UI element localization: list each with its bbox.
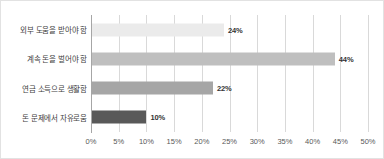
x-tick-label: 10% xyxy=(139,137,154,146)
x-tick-label: 20% xyxy=(194,137,209,146)
bar-row: 10% xyxy=(91,103,368,132)
category-label-row: 계속 돈을 벌어야 함 xyxy=(1,44,87,73)
value-axis-ticks: 0%5%10%15%20%25%30%35%40%45%50% xyxy=(91,137,368,151)
category-label: 돈 문제에서 자유로움 xyxy=(22,112,87,123)
bar-row: 24% xyxy=(91,15,368,44)
x-tick-label: 40% xyxy=(305,137,320,146)
bar-value-label: 44% xyxy=(339,54,354,63)
plot-area: 24%44%22%10% xyxy=(91,15,368,132)
x-tick-label: 25% xyxy=(222,137,237,146)
bar-row: 22% xyxy=(91,74,368,103)
category-label: 외부 도움을 받아야 함 xyxy=(20,24,87,35)
category-label: 연금 소득으로 생활함 xyxy=(22,83,87,94)
x-tick-label: 5% xyxy=(113,137,124,146)
bar-value-label: 22% xyxy=(217,84,232,93)
x-tick-label: 50% xyxy=(360,137,375,146)
x-tick-label: 45% xyxy=(333,137,348,146)
bar-value-label: 10% xyxy=(150,113,165,122)
category-label: 계속 돈을 벌어야 함 xyxy=(27,53,87,64)
bar xyxy=(91,111,146,124)
category-axis: 외부 도움을 받아야 함계속 돈을 벌어야 함연금 소득으로 생활함돈 문제에서… xyxy=(1,15,87,132)
bar xyxy=(91,23,224,36)
category-label-row: 돈 문제에서 자유로움 xyxy=(1,103,87,132)
value-axis-line xyxy=(91,15,92,133)
bar-chart: 외부 도움을 받아야 함계속 돈을 벌어야 함연금 소득으로 생활함돈 문제에서… xyxy=(0,0,384,159)
category-label-row: 연금 소득으로 생활함 xyxy=(1,74,87,103)
bar xyxy=(91,52,335,65)
x-tick-label: 30% xyxy=(250,137,265,146)
bar xyxy=(91,82,213,95)
gridline xyxy=(368,15,369,132)
bar-row: 44% xyxy=(91,44,368,73)
x-tick-label: 35% xyxy=(277,137,292,146)
x-tick-label: 15% xyxy=(167,137,182,146)
category-label-row: 외부 도움을 받아야 함 xyxy=(1,15,87,44)
x-tick-label: 0% xyxy=(86,137,97,146)
bar-value-label: 24% xyxy=(228,25,243,34)
